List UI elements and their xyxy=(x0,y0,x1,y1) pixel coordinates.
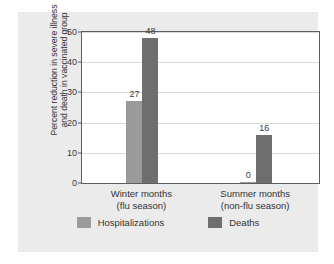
x-axis-category-line-1: Summer months xyxy=(220,188,290,200)
y-axis-tick-label: 50 xyxy=(47,27,77,37)
y-axis-tick-label: 0 xyxy=(47,178,77,188)
legend-swatch-hospitalizations xyxy=(77,217,91,228)
chart-card: Percent reduction in severe illness and … xyxy=(18,12,318,252)
gridline xyxy=(82,92,319,93)
legend-item-hospitalizations: Hospitalizations xyxy=(77,217,165,228)
y-axis-tick-label: 10 xyxy=(47,148,77,158)
y-axis-tick-label: 20 xyxy=(47,118,77,128)
bar-value-label: 48 xyxy=(145,26,155,36)
gridline xyxy=(82,32,319,33)
y-axis-tick-mark xyxy=(78,62,82,63)
y-axis-tick-mark xyxy=(78,92,82,93)
x-axis-category-line-1: Winter months xyxy=(111,188,172,200)
plot-area: 010203040502748016 xyxy=(81,31,320,184)
x-axis-category-line-2: (flu season) xyxy=(111,200,172,212)
bar-value-label: 16 xyxy=(259,123,269,133)
bar-hospitalizations-0 xyxy=(126,101,142,183)
legend-item-deaths: Deaths xyxy=(208,217,259,228)
x-axis-category-label-0: Winter months(flu season) xyxy=(111,188,172,212)
y-axis-tick-mark xyxy=(78,32,82,33)
bar-deaths-0 xyxy=(142,38,158,183)
legend-swatch-deaths xyxy=(208,217,222,228)
x-axis-category-line-2: (non-flu season) xyxy=(220,200,290,212)
gridline xyxy=(82,153,319,154)
gridline xyxy=(82,123,319,124)
bar-hospitalizations-1 xyxy=(240,182,256,184)
legend-label-hospitalizations: Hospitalizations xyxy=(98,217,165,228)
chart-figure: Percent reduction in severe illness and … xyxy=(0,0,334,264)
y-axis-tick-label: 30 xyxy=(47,87,77,97)
chart-legend: Hospitalizations Deaths xyxy=(18,217,318,228)
gridline xyxy=(82,62,319,63)
bar-deaths-1 xyxy=(256,135,272,183)
y-axis-title: Percent reduction in severe illness and … xyxy=(41,0,77,155)
y-axis-tick-mark xyxy=(78,152,82,153)
y-axis-tick-mark xyxy=(78,122,82,123)
x-axis-category-label-1: Summer months(non-flu season) xyxy=(220,188,290,212)
y-axis-title-line-1: Percent reduction in severe illness xyxy=(49,5,60,136)
bar-value-label: 0 xyxy=(246,170,251,180)
legend-label-deaths: Deaths xyxy=(229,217,259,228)
bar-value-label: 27 xyxy=(129,89,139,99)
y-axis-tick-label: 40 xyxy=(47,57,77,67)
y-axis-tick-mark xyxy=(78,183,82,184)
